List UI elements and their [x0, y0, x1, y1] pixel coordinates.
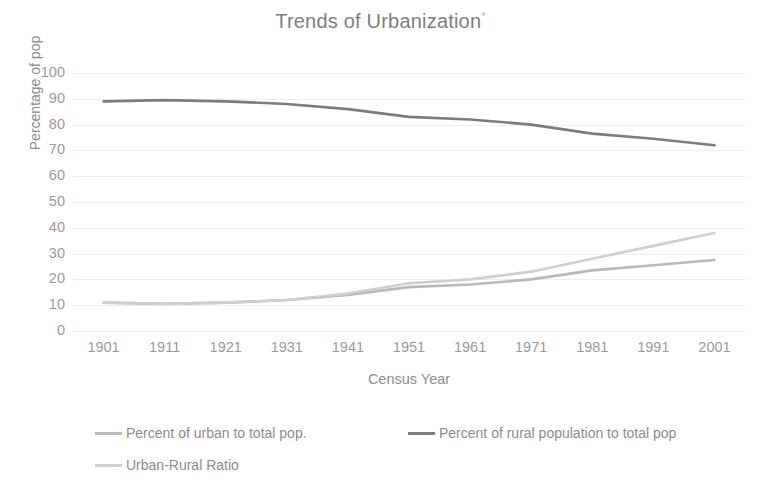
legend-label-urban: Percent of urban to total pop. [126, 425, 307, 441]
x-tick-label: 1901 [74, 339, 134, 355]
x-tick-label: 1991 [623, 339, 683, 355]
legend-item-urban[interactable]: Percent of urban to total pop. [95, 425, 307, 441]
chart-title-superscript: * [481, 10, 485, 22]
y-tick-label: 60 [25, 168, 65, 183]
y-tick-label: 90 [25, 91, 65, 106]
y-tick-label: 0 [25, 323, 65, 338]
x-tick-label: 1971 [501, 339, 561, 355]
series-line-1 [104, 100, 715, 145]
y-tick-label: 40 [25, 220, 65, 235]
urbanization-line-chart: Trends of Urbanization* Percentage of po… [0, 0, 761, 481]
legend-swatch-urban-rural-ratio [95, 464, 122, 467]
legend-label-rural: Percent of rural population to total pop [439, 425, 676, 441]
chart-title-text: Trends of Urbanization [275, 10, 481, 32]
y-tick-label: 20 [25, 271, 65, 286]
x-tick-label: 2001 [684, 339, 744, 355]
x-axis-tick-labels: 1901191119211931194119511961197119811991… [73, 339, 745, 363]
legend-swatch-rural [408, 432, 435, 435]
x-tick-label: 1921 [196, 339, 256, 355]
x-tick-label: 1941 [318, 339, 378, 355]
x-axis-title: Census Year [73, 371, 745, 387]
y-tick-label: 100 [25, 65, 65, 80]
legend-swatch-urban [95, 432, 122, 435]
y-tick-label: 70 [25, 142, 65, 157]
chart-title: Trends of Urbanization* [0, 10, 761, 33]
y-tick-label: 80 [25, 117, 65, 132]
y-tick-label: 10 [25, 297, 65, 312]
x-tick-label: 1951 [379, 339, 439, 355]
x-tick-label: 1981 [562, 339, 622, 355]
chart-legend: Percent of urban to total pop. Percent o… [95, 425, 755, 475]
y-tick-label: 30 [25, 246, 65, 261]
legend-item-urban-rural-ratio[interactable]: Urban-Rural Ratio [95, 457, 239, 473]
plot-area: Percentage of pop 0102030405060708090100… [73, 73, 745, 331]
legend-item-rural[interactable]: Percent of rural population to total pop [408, 425, 676, 441]
gridline [73, 331, 745, 332]
x-tick-label: 1961 [440, 339, 500, 355]
x-tick-label: 1931 [257, 339, 317, 355]
x-tick-label: 1911 [135, 339, 195, 355]
legend-label-urban-rural-ratio: Urban-Rural Ratio [126, 457, 239, 473]
series-lines [73, 73, 745, 331]
y-tick-label: 50 [25, 194, 65, 209]
